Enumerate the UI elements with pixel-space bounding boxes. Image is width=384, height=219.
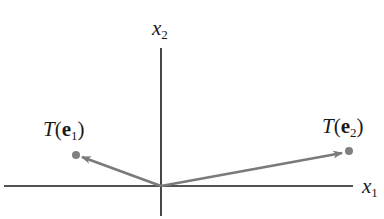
t-e2-vec: e <box>341 114 350 138</box>
point-t-e2 <box>345 147 353 155</box>
t-e1-func: T <box>43 117 55 141</box>
x1-axis-label: x1 <box>362 176 378 199</box>
vector-t-e1 <box>82 157 161 186</box>
x2-var: x <box>152 16 161 40</box>
x1-var: x <box>362 174 371 198</box>
t-e1-label: T(e1) <box>43 119 85 142</box>
x2-subscript: 2 <box>161 27 168 42</box>
t-e2-subscript: 2 <box>350 125 357 140</box>
x2-axis-label: x2 <box>152 18 168 41</box>
t-e2-func: T <box>322 114 334 138</box>
point-t-e1 <box>72 151 80 159</box>
t-e1-subscript: 1 <box>71 128 78 143</box>
t-e1-vec: e <box>62 117 71 141</box>
t-e2-label: T(e2) <box>322 116 364 139</box>
x1-subscript: 1 <box>371 185 378 200</box>
vector-t-e2 <box>161 153 342 186</box>
coordinate-diagram <box>0 0 384 219</box>
